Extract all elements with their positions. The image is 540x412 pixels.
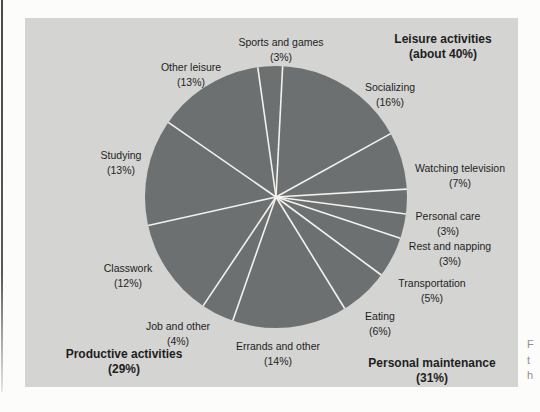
group-label-personal-maintenance-percent: (31%) (368, 371, 495, 386)
slice-label-watching-television-name: Watching television (415, 161, 505, 176)
figure-panel: Sports and games(3%)Socializing(16%)Watc… (25, 18, 518, 387)
slice-label-errands-and-other: Errands and other(14%) (236, 339, 320, 369)
slice-label-rest-and-napping: Rest and napping(3%) (409, 239, 491, 269)
slice-label-eating-percent: (6%) (365, 324, 395, 339)
slice-label-rest-and-napping-percent: (3%) (409, 254, 491, 269)
slice-label-errands-and-other-percent: (14%) (236, 354, 320, 369)
slice-label-other-leisure-name: Other leisure (161, 60, 221, 75)
caption-fragment-1: F (527, 338, 540, 350)
pie-chart (25, 18, 518, 387)
group-label-personal-maintenance-name: Personal maintenance (368, 356, 495, 371)
slice-label-rest-and-napping-name: Rest and napping (409, 239, 491, 254)
slice-label-transportation-name: Transportation (398, 276, 465, 291)
group-label-personal-maintenance: Personal maintenance(31%) (368, 356, 495, 386)
slice-label-personal-care-percent: (3%) (416, 224, 481, 239)
slice-label-socializing-name: Socializing (365, 80, 415, 95)
slice-label-personal-care-name: Personal care (416, 209, 481, 224)
slice-label-job-and-other: Job and other(4%) (146, 319, 210, 349)
slice-label-eating: Eating(6%) (365, 309, 395, 339)
scan-page-edge-line (1, 0, 3, 392)
slice-label-studying-percent: (13%) (101, 163, 142, 178)
slice-label-job-and-other-name: Job and other (146, 319, 210, 334)
slice-label-studying: Studying(13%) (101, 148, 142, 178)
page: { "page": { "caption_fragments": [ {"tex… (0, 0, 540, 412)
group-label-productive-activities-name: Productive activities (66, 347, 183, 362)
slice-label-watching-television-percent: (7%) (415, 176, 505, 191)
slice-label-classwork-percent: (12%) (104, 276, 152, 291)
group-label-productive-activities: Productive activities(29%) (66, 347, 183, 377)
slice-label-errands-and-other-name: Errands and other (236, 339, 320, 354)
slice-label-socializing: Socializing(16%) (365, 80, 415, 110)
slice-label-transportation-percent: (5%) (398, 291, 465, 306)
caption-fragment-3: h (527, 369, 540, 381)
slice-label-sports-and-games-name: Sports and games (238, 35, 323, 50)
slice-label-classwork: Classwork(12%) (104, 261, 152, 291)
slice-label-classwork-name: Classwork (104, 261, 152, 276)
slice-label-studying-name: Studying (101, 148, 142, 163)
slice-label-other-leisure-percent: (13%) (161, 75, 221, 90)
group-label-productive-activities-percent: (29%) (66, 362, 183, 377)
group-label-leisure-activities-percent: (about 40%) (394, 47, 491, 62)
group-label-leisure-activities-name: Leisure activities (394, 32, 491, 47)
slice-label-socializing-percent: (16%) (365, 95, 415, 110)
slice-label-sports-and-games-percent: (3%) (238, 50, 323, 65)
group-label-leisure-activities: Leisure activities(about 40%) (394, 32, 491, 62)
slice-label-personal-care: Personal care(3%) (416, 209, 481, 239)
slice-label-watching-television: Watching television(7%) (415, 161, 505, 191)
slice-label-transportation: Transportation(5%) (398, 276, 465, 306)
slice-label-eating-name: Eating (365, 309, 395, 324)
slice-label-sports-and-games: Sports and games(3%) (238, 35, 323, 65)
caption-fragment-2: t (527, 354, 540, 366)
slice-label-other-leisure: Other leisure(13%) (161, 60, 221, 90)
